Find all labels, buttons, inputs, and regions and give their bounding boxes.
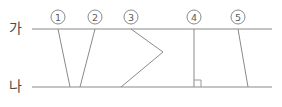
geometry-figure: 1 2 3 4 5 가 나 xyxy=(0,0,282,107)
transversal-segment-1 xyxy=(58,29,70,87)
marker-label-4: 4 xyxy=(191,12,197,23)
marker-5: 5 xyxy=(231,10,245,24)
right-angle-icon xyxy=(194,80,201,87)
transversal-segment-2 xyxy=(80,29,95,87)
marker-label-2: 2 xyxy=(92,12,98,23)
transversal-segment-5 xyxy=(238,29,248,87)
transversal-group xyxy=(58,29,248,87)
marker-1: 1 xyxy=(51,10,65,24)
marker-4: 4 xyxy=(187,10,201,24)
figure-canvas: 1 2 3 4 5 xyxy=(0,0,282,107)
rail-label-bottom: 나 xyxy=(9,79,22,93)
marker-label-1: 1 xyxy=(55,12,61,23)
marker-2: 2 xyxy=(88,10,102,24)
marker-group: 1 2 3 4 5 xyxy=(51,10,245,24)
rail-label-top: 가 xyxy=(9,21,22,35)
marker-label-3: 3 xyxy=(128,12,134,23)
marker-3: 3 xyxy=(124,10,138,24)
transversal-segment-3 xyxy=(121,29,163,87)
marker-label-5: 5 xyxy=(235,12,241,23)
